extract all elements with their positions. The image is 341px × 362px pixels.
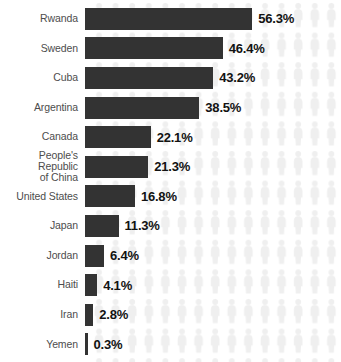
- chart-row: Canada22.1%: [0, 122, 341, 152]
- value-label: 46.4%: [229, 41, 265, 56]
- bar: [85, 67, 213, 89]
- category-label: Rwanda: [0, 13, 85, 24]
- chart-row: Yemen0.3%: [0, 330, 341, 360]
- bar: [85, 245, 104, 267]
- value-label: 0.3%: [94, 337, 123, 352]
- value-label: 16.8%: [141, 189, 177, 204]
- category-label: People's Republic of China: [0, 150, 85, 184]
- bar-track: 2.8%: [85, 300, 341, 330]
- value-label: 11.3%: [125, 218, 160, 233]
- category-label: Argentina: [0, 102, 85, 113]
- bar: [85, 185, 135, 207]
- chart-row: Sweden46.4%: [0, 34, 341, 64]
- bar-track: 46.4%: [85, 34, 341, 64]
- bar-track: 4.1%: [85, 270, 341, 300]
- bar: [85, 8, 252, 30]
- chart-row: Haiti4.1%: [0, 270, 341, 300]
- chart-row: Cuba43.2%: [0, 63, 341, 93]
- category-label: Iran: [0, 309, 85, 320]
- bar: [85, 333, 88, 355]
- bar-track: 6.4%: [85, 241, 341, 271]
- chart-row: United States16.8%: [0, 182, 341, 212]
- value-label: 21.3%: [154, 159, 190, 174]
- bar-track: 21.3%: [85, 152, 341, 182]
- value-label: 2.8%: [99, 307, 128, 322]
- value-label: 4.1%: [103, 278, 132, 293]
- category-label: Canada: [0, 131, 85, 142]
- chart-row: Jordan6.4%: [0, 241, 341, 271]
- bar: [85, 126, 151, 148]
- category-label: United States: [0, 191, 85, 202]
- bar: [85, 37, 223, 59]
- bar: [85, 274, 97, 296]
- chart-row: Rwanda56.3%: [0, 4, 341, 34]
- bar-track: 56.3%: [85, 4, 341, 34]
- bar-track: 38.5%: [85, 93, 341, 123]
- bar-track: 43.2%: [85, 63, 341, 93]
- category-label: Sweden: [0, 43, 85, 54]
- value-label: 43.2%: [219, 70, 255, 85]
- bar-track: 11.3%: [85, 211, 341, 241]
- category-label: Jordan: [0, 250, 85, 261]
- chart-row: Iran2.8%: [0, 300, 341, 330]
- bar-track: 0.3%: [85, 330, 341, 360]
- bar-chart: Rwanda56.3%Sweden46.4%Cuba43.2%Argentina…: [0, 0, 341, 362]
- chart-row: Japan11.3%: [0, 211, 341, 241]
- value-label: 56.3%: [258, 11, 294, 26]
- bar: [85, 304, 93, 326]
- value-label: 6.4%: [110, 248, 139, 263]
- category-label: Japan: [0, 220, 85, 231]
- category-label: Yemen: [0, 339, 85, 350]
- bar: [85, 156, 148, 178]
- chart-rows: Rwanda56.3%Sweden46.4%Cuba43.2%Argentina…: [0, 0, 341, 359]
- category-label: Cuba: [0, 72, 85, 83]
- value-label: 22.1%: [157, 130, 193, 145]
- bar-track: 16.8%: [85, 182, 341, 212]
- bar: [85, 97, 199, 119]
- category-label: Haiti: [0, 279, 85, 290]
- bar-track: 22.1%: [85, 122, 341, 152]
- bar: [85, 215, 119, 237]
- chart-row: Argentina38.5%: [0, 93, 341, 123]
- value-label: 38.5%: [205, 100, 241, 115]
- chart-row: People's Republic of China21.3%: [0, 152, 341, 182]
